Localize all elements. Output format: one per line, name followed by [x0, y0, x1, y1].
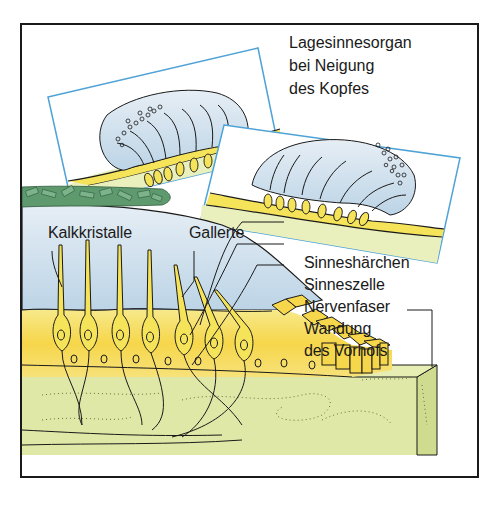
label-wandung: Wandung	[304, 319, 371, 338]
title-line-2: bei Neigung	[289, 56, 374, 75]
label-gallerte: Gallerte	[189, 223, 244, 242]
diagram-frame: Lagesinnesorgan bei Neigung des Kopfes K…	[20, 23, 479, 478]
title-line-3: des Kopfes	[289, 79, 369, 98]
label-sinneshaerchen: Sinneshärchen	[304, 253, 409, 272]
kalkkristalle-crystals	[22, 185, 170, 207]
vestibular-organ-illustration	[22, 25, 479, 478]
label-sinneszelle: Sinneszelle	[304, 275, 385, 294]
label-nervenfaser: Nervenfaser	[304, 297, 390, 316]
label-kalkkristalle: Kalkkristalle	[48, 223, 132, 242]
title-line-1: Lagesinnesorgan	[289, 33, 412, 52]
label-des-vorhofs: des Vorhofs	[304, 341, 387, 360]
